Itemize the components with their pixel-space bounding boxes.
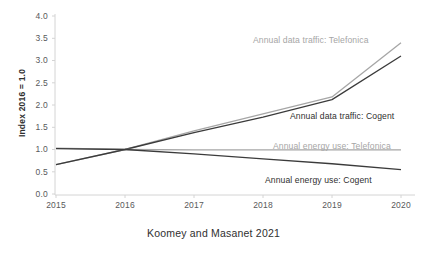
annotation-traffic-telefonica: Annual data traffic: Telefonica: [253, 35, 369, 45]
annotation-energy-cogent: Annual energy use: Cogent: [265, 175, 372, 185]
series-line-energy-cogent: [56, 149, 401, 170]
chart-container: Index 2016 = 1.0 4.0 3.5 3.0 2.5 2.0 1.5…: [0, 0, 427, 254]
annotation-energy-telefonica: Annual energy use: Telefonica: [273, 141, 391, 151]
chart-caption: Koomey and Masanet 2021: [0, 227, 427, 239]
annotation-traffic-cogent: Annual data traffic: Cogent: [290, 111, 394, 121]
